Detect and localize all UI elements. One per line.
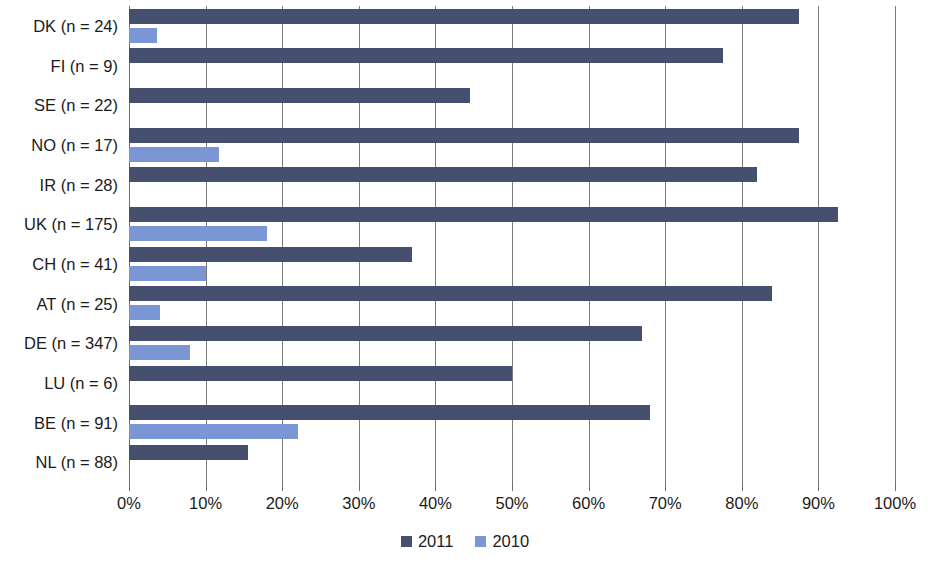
bar-2010 xyxy=(129,424,298,439)
category-label: UK (n = 175) xyxy=(24,216,118,233)
x-tick-label: 90% xyxy=(802,495,835,512)
bar-group xyxy=(129,323,895,363)
bar-rows xyxy=(129,6,895,482)
chart-legend: 20112010 xyxy=(0,533,930,550)
x-tick-label: 0% xyxy=(117,495,141,512)
x-tick xyxy=(665,482,666,491)
bar-2011 xyxy=(129,48,723,63)
plot-area xyxy=(129,6,895,482)
category-label: NO (n = 17) xyxy=(31,137,118,154)
bar-spacer xyxy=(129,301,895,305)
category-label: AT (n = 25) xyxy=(37,295,118,312)
category-axis-labels: DK (n = 24)FI (n = 9)SE (n = 22)NO (n = … xyxy=(0,6,124,482)
bar-2011 xyxy=(129,405,650,420)
bar-spacer xyxy=(129,381,895,385)
category-label: NL (n = 88) xyxy=(36,454,118,471)
bar-group xyxy=(129,244,895,284)
category-label: LU (n = 6) xyxy=(44,375,118,392)
category-label: IR (n = 28) xyxy=(40,176,118,193)
bar-2010 xyxy=(129,226,267,241)
category-label: DK (n = 24) xyxy=(33,18,118,35)
x-tick xyxy=(129,482,130,491)
bar-2011 xyxy=(129,207,838,222)
x-tick-label: 40% xyxy=(419,495,452,512)
bar-spacer xyxy=(129,460,895,464)
x-tick xyxy=(742,482,743,491)
category-label: CH (n = 41) xyxy=(32,256,118,273)
bar-2010 xyxy=(129,266,206,281)
bar-group xyxy=(129,125,895,165)
legend-swatch-icon xyxy=(401,536,412,547)
x-tick-label: 70% xyxy=(649,495,682,512)
x-tick-label: 30% xyxy=(342,495,375,512)
bar-chart: DK (n = 24)FI (n = 9)SE (n = 22)NO (n = … xyxy=(0,0,930,564)
x-tick xyxy=(895,482,896,491)
category-label: DE (n = 347) xyxy=(24,335,118,352)
category-label: BE (n = 91) xyxy=(34,414,118,431)
bar-group xyxy=(129,85,895,125)
bar-spacer xyxy=(129,63,895,67)
bar-group xyxy=(129,6,895,46)
x-tick-label: 20% xyxy=(266,495,299,512)
bar-group xyxy=(129,165,895,205)
bar-2011 xyxy=(129,88,470,103)
bar-2011 xyxy=(129,247,412,262)
x-tick xyxy=(282,482,283,491)
legend-swatch-icon xyxy=(475,536,486,547)
bar-group xyxy=(129,363,895,403)
bar-2011 xyxy=(129,128,799,143)
bar-2010 xyxy=(129,147,219,162)
bar-group xyxy=(129,46,895,86)
gridline-100pct xyxy=(895,6,896,482)
x-tick-label: 100% xyxy=(874,495,916,512)
x-tick xyxy=(512,482,513,491)
x-tick xyxy=(206,482,207,491)
bar-group xyxy=(129,403,895,443)
bar-group xyxy=(129,442,895,482)
bar-spacer xyxy=(129,262,895,266)
bar-spacer xyxy=(129,24,895,28)
x-tick-label: 80% xyxy=(725,495,758,512)
bar-2010 xyxy=(129,345,190,360)
x-tick-label: 50% xyxy=(495,495,528,512)
bar-2011 xyxy=(129,326,642,341)
legend-label: 2011 xyxy=(418,533,453,550)
bar-2011 xyxy=(129,167,757,182)
legend-item-2011[interactable]: 2011 xyxy=(401,533,453,550)
x-tick-label: 10% xyxy=(189,495,222,512)
x-tick xyxy=(589,482,590,491)
category-label: FI (n = 9) xyxy=(51,57,118,74)
category-label: SE (n = 22) xyxy=(34,97,118,114)
bar-spacer xyxy=(129,143,895,147)
legend-item-2010[interactable]: 2010 xyxy=(475,533,529,550)
x-tick-label: 60% xyxy=(572,495,605,512)
x-tick xyxy=(435,482,436,491)
bar-2011 xyxy=(129,9,799,24)
bar-spacer xyxy=(129,182,895,186)
bar-spacer xyxy=(129,103,895,107)
legend-label: 2010 xyxy=(492,533,529,550)
bar-2011 xyxy=(129,366,512,381)
bar-2011 xyxy=(129,445,248,460)
bar-2010 xyxy=(129,305,160,320)
bar-group xyxy=(129,284,895,324)
bar-2010 xyxy=(129,28,157,43)
bar-group xyxy=(129,204,895,244)
bar-2011 xyxy=(129,286,772,301)
x-axis: 0%10%20%30%40%50%60%70%80%90%100% xyxy=(129,482,895,528)
x-tick xyxy=(818,482,819,491)
bar-spacer xyxy=(129,341,895,345)
x-tick xyxy=(359,482,360,491)
